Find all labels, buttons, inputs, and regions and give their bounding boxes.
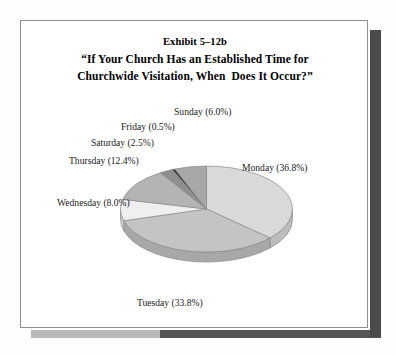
slice-label-friday: Friday (0.5%) xyxy=(121,121,175,132)
slice-label-monday: Monday (36.8%) xyxy=(242,162,308,173)
exhibit-card: Exhibit 5–12b “If Your Church Has an Est… xyxy=(20,20,368,328)
page-root: Exhibit 5–12b “If Your Church Has an Est… xyxy=(0,0,396,355)
slice-label-wednesday: Wednesday (8.0%) xyxy=(57,197,130,208)
slice-label-sunday: Sunday (6.0%) xyxy=(174,106,232,117)
pie-chart-svg xyxy=(21,21,369,329)
pie-slices xyxy=(121,166,293,252)
card-drop-shadow-right xyxy=(370,30,381,337)
card-drop-shadow-bottom xyxy=(160,330,381,338)
slice-label-saturday: Saturday (2.5%) xyxy=(91,137,154,148)
pie-chart: Sunday (6.0%) Friday (0.5%) Saturday (2.… xyxy=(21,21,369,329)
slice-label-thursday: Thursday (12.4%) xyxy=(69,155,139,166)
slice-label-tuesday: Tuesday (33.8%) xyxy=(137,297,203,308)
